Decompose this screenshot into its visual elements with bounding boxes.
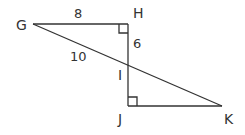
right-angle-mark-j (128, 97, 137, 106)
length-gh: 8 (74, 6, 82, 21)
label-g: G (16, 17, 27, 33)
triangle-diagram: G H I J K 8 6 10 (0, 0, 245, 135)
label-k: K (224, 111, 234, 127)
right-angle-mark-h (119, 24, 128, 33)
label-j: J (117, 111, 122, 127)
label-i: I (118, 67, 122, 83)
label-h: H (133, 5, 144, 21)
length-hi: 6 (133, 36, 141, 51)
length-gi: 10 (70, 49, 87, 64)
